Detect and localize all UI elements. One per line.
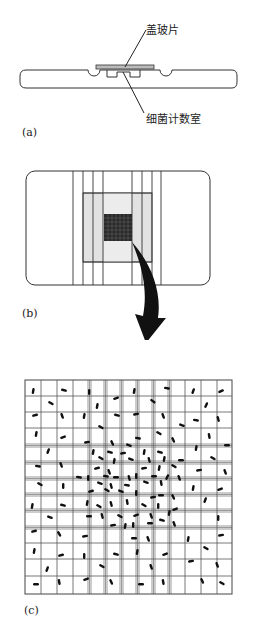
panel-c-grid <box>0 0 256 633</box>
panel-c-label: (c) <box>24 604 39 617</box>
